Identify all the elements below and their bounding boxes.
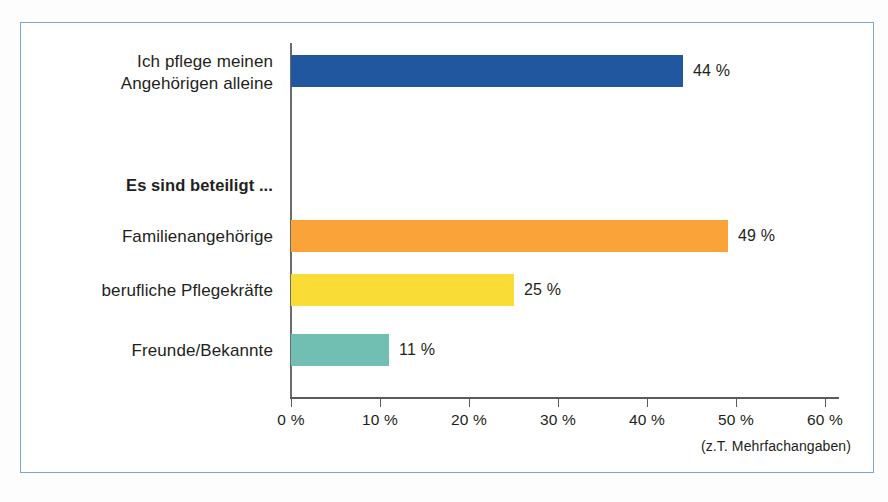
group-heading: Es sind beteiligt ...	[126, 175, 273, 197]
bar-freunde	[291, 334, 389, 366]
bar-value-alleine: 44 %	[693, 62, 730, 80]
x-tick-label-40: 40 %	[629, 411, 665, 429]
bar-value-familienangehoerige: 49 %	[738, 227, 775, 245]
bar-value-freunde: 11 %	[399, 341, 435, 359]
bar-pflegekraefte	[291, 274, 514, 306]
x-tick-label-20: 20 %	[451, 411, 487, 429]
category-label-pflegekraefte: berufliche Pflegekräfte	[102, 280, 273, 302]
x-tick-20	[469, 398, 470, 407]
chart-frame: 0 % 10 % 20 % 30 % 40 % 50 % 60 % Ich pf…	[20, 22, 874, 473]
footnote-note: (z.T. Mehrfachangaben)	[701, 438, 851, 454]
x-tick-label-30: 30 %	[540, 411, 576, 429]
category-label-familienangehoerige: Familienangehörige	[122, 226, 273, 248]
x-tick-60	[825, 398, 826, 407]
bar-alleine	[291, 55, 683, 87]
x-tick-label-10: 10 %	[362, 411, 398, 429]
x-tick-0	[291, 398, 292, 407]
category-label-alleine: Ich pflege meinen Angehörigen alleine	[121, 51, 273, 96]
x-tick-40	[647, 398, 648, 407]
bar-value-pflegekraefte: 25 %	[524, 281, 561, 299]
plot-area: 0 % 10 % 20 % 30 % 40 % 50 % 60 % Ich pf…	[21, 23, 873, 472]
x-tick-label-50: 50 %	[718, 411, 754, 429]
x-tick-30	[558, 398, 559, 407]
x-tick-10	[380, 398, 381, 407]
category-label-freunde: Freunde/Bekannte	[132, 340, 273, 362]
x-tick-label-0: 0 %	[277, 411, 304, 429]
x-tick-label-60: 60 %	[807, 411, 843, 429]
x-axis-line	[290, 397, 839, 399]
x-tick-50	[736, 398, 737, 407]
page-background: 0 % 10 % 20 % 30 % 40 % 50 % 60 % Ich pf…	[0, 0, 888, 502]
bar-familienangehoerige	[291, 220, 728, 252]
